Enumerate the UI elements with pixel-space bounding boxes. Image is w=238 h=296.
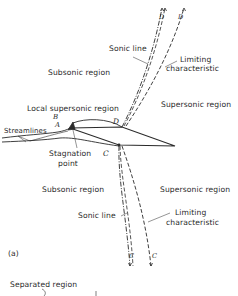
supersonic-region-upper-label: Supersonic region bbox=[161, 101, 231, 109]
streamlines-label: Streamlines bbox=[4, 128, 47, 135]
point-b-label: B bbox=[53, 114, 58, 121]
separated-region-mark bbox=[42, 289, 96, 296]
upper-sonic-line bbox=[122, 8, 162, 127]
stagnation-point-marker bbox=[118, 144, 121, 147]
panel-label: (a) bbox=[8, 250, 19, 258]
point-d-label: D bbox=[113, 118, 119, 126]
supersonic-region-lower-label: Supersonic region bbox=[160, 186, 230, 194]
limiting-upper-label-1: Limiting bbox=[180, 56, 211, 64]
limiting-lower-label-1: Limiting bbox=[175, 209, 206, 217]
stagnation-label: Stagnation bbox=[49, 150, 91, 158]
point-c-label: C bbox=[103, 150, 109, 158]
stagnation-point-label: point bbox=[58, 160, 78, 168]
limiting-upper-label-2: characteristic bbox=[166, 65, 219, 73]
lower-char-end-label: C bbox=[152, 253, 157, 260]
sonic-line-lower-label: Sonic line bbox=[78, 212, 116, 220]
separated-region-label: Separated region bbox=[10, 281, 77, 289]
subsonic-region-lower-label: Subsonic region bbox=[42, 186, 104, 194]
lower-sonic-end-label: C bbox=[129, 253, 134, 260]
upper-sonic-line-2 bbox=[124, 8, 165, 126]
upper-sonic-end-label: D bbox=[159, 14, 164, 21]
sonic-line-upper-leader bbox=[133, 57, 148, 64]
subsonic-region-upper-label: Subsonic region bbox=[48, 69, 110, 77]
lower-sonic-line-2 bbox=[120, 146, 133, 266]
local-supersonic-region-label: Local supersonic region bbox=[27, 105, 119, 113]
airfoil-body bbox=[70, 127, 175, 146]
lower-arrows bbox=[129, 263, 153, 266]
sonic-line-upper-label: Sonic line bbox=[109, 45, 147, 53]
flow-diagram: Subsonic region Supersonic region Local … bbox=[0, 0, 238, 296]
upper-char-end-label: D bbox=[178, 14, 183, 21]
point-a-label: A bbox=[55, 122, 60, 129]
limiting-lower-label-2: characteristic bbox=[166, 219, 219, 227]
